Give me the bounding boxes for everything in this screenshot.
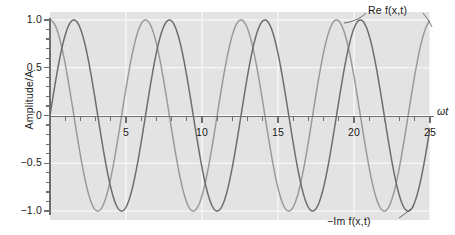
x-axis-tick (353, 116, 354, 123)
y-axis-tick-minor (46, 38, 50, 39)
x-axis-tick-minor (217, 116, 218, 121)
x-axis-tick-minor (110, 116, 111, 121)
y-axis-tick-label: 0 (0, 109, 42, 121)
y-axis-tick-minor (46, 105, 50, 106)
x-axis-tick-label: 25 (410, 126, 450, 138)
y-axis-tick (44, 210, 50, 211)
x-axis-tick-minor (80, 116, 81, 121)
y-axis-tick-minor (46, 201, 50, 202)
x-axis-tick-minor (384, 116, 385, 121)
y-axis-tick (44, 115, 50, 116)
x-axis-tick-minor (414, 116, 415, 121)
y-axis-tick-minor (46, 172, 50, 173)
y-axis-tick-minor (46, 86, 50, 87)
x-axis-tick-minor (156, 116, 157, 121)
y-axis-tick-label: 0.5 (0, 61, 42, 73)
x-axis-tick-minor (262, 116, 263, 121)
y-axis-tick-minor (46, 191, 50, 192)
x-axis-line (49, 116, 434, 118)
x-axis-tick-minor (186, 116, 187, 121)
annotation-re-f: Re f(x,t) (368, 4, 407, 16)
y-axis-tick (44, 67, 50, 68)
x-axis-tick-minor (399, 116, 400, 121)
x-axis-tick-minor (323, 116, 324, 121)
y-axis-tick-label: −0.5 (0, 156, 42, 168)
y-axis-tick-minor (46, 29, 50, 30)
y-axis-title: Amplitude/A (23, 40, 35, 160)
x-axis-tick-label: 5 (106, 126, 146, 138)
y-axis-tick-minor (46, 58, 50, 59)
y-axis-tick (44, 19, 50, 20)
y-axis-tick-label: −1.0 (0, 204, 42, 216)
x-axis-tick (277, 116, 278, 123)
x-axis-tick-minor (232, 116, 233, 121)
x-axis-tick-minor (308, 116, 309, 121)
y-axis-tick-minor (46, 124, 50, 125)
y-axis-tick-minor (46, 182, 50, 183)
x-axis-tick-minor (369, 116, 370, 121)
x-axis-tick (125, 116, 126, 123)
figure-canvas: 1.00.50−0.5−1.0 510152025 Amplitude/A ωt… (0, 0, 455, 235)
x-axis-tick (201, 116, 202, 123)
y-axis-tick-minor (46, 96, 50, 97)
annotation-neg-im-f: −Im f(x,t) (327, 215, 371, 227)
x-axis-tick (429, 116, 430, 123)
y-axis-tick-minor (46, 153, 50, 154)
x-axis-title: ωt (437, 105, 448, 117)
x-axis-tick-minor (293, 116, 294, 121)
y-axis-tick (44, 163, 50, 164)
y-axis-tick-label: 1.0 (0, 13, 42, 25)
y-axis-tick-minor (46, 48, 50, 49)
x-axis-tick-minor (65, 116, 66, 121)
y-axis-tick-minor (46, 134, 50, 135)
x-axis-tick-minor (338, 116, 339, 121)
x-axis-tick-minor (247, 116, 248, 121)
y-axis-tick-minor (46, 77, 50, 78)
x-axis-tick-minor (141, 116, 142, 121)
x-axis-tick-minor (171, 116, 172, 121)
x-axis-tick-label: 10 (182, 126, 222, 138)
x-axis-tick-label: 20 (334, 126, 374, 138)
y-axis-tick-minor (46, 144, 50, 145)
x-axis-tick-label: 15 (258, 126, 298, 138)
x-axis-tick-minor (95, 116, 96, 121)
